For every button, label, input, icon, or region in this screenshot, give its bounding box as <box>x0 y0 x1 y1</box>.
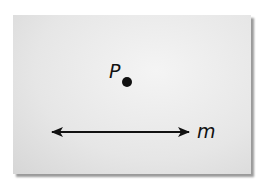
point-label-p: P <box>109 60 121 82</box>
geometry-figure: P m <box>0 0 261 183</box>
point-p <box>122 77 132 87</box>
line-label-m: m <box>197 120 216 142</box>
